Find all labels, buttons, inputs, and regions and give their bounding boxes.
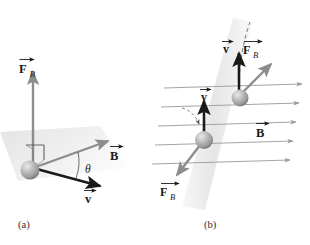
- field-line: [155, 141, 293, 145]
- field-label-b-symbol: B: [256, 126, 264, 140]
- physics-figure: F B B v θ (a): [0, 0, 310, 245]
- velocity-label-b-lower-symbol: v: [201, 90, 207, 104]
- velocity-label-b-lower: v: [200, 90, 211, 105]
- field-label-a-symbol: B: [110, 149, 118, 163]
- panel-tag-b: (b): [204, 219, 217, 231]
- field-line: [158, 122, 296, 126]
- particle-sphere-b-upper: [232, 90, 249, 107]
- force-label-b-lower-subscript: B: [170, 192, 175, 202]
- force-label-b-upper-symbol: F: [243, 43, 250, 57]
- force-label-b-upper-subscript: B: [253, 50, 258, 60]
- force-label-b-lower: F B: [160, 184, 179, 202]
- particle-sphere-a: [21, 161, 40, 180]
- particle-sphere-b-lower: [195, 131, 213, 149]
- panel-a: F B B v θ (a): [0, 60, 128, 232]
- figure-canvas: F B B v θ (a): [0, 0, 310, 245]
- velocity-label-a: v: [84, 191, 96, 207]
- field-label-b: B: [256, 124, 269, 141]
- velocity-label-b-upper-symbol: v: [223, 42, 229, 56]
- panel-b: B v F: [152, 18, 302, 231]
- angle-label-a: θ: [85, 163, 91, 175]
- trajectory-dashed-lower: [182, 108, 199, 124]
- force-label-a-subscript: B: [30, 69, 36, 79]
- plane-vb-a: [0, 126, 128, 181]
- field-line: [152, 160, 290, 164]
- force-label-b-upper: F B: [243, 42, 262, 60]
- panel-tag-a: (a): [18, 219, 30, 231]
- force-label-a-symbol: F: [19, 62, 27, 76]
- force-label-b-lower-symbol: F: [160, 185, 167, 199]
- velocity-label-a-symbol: v: [85, 192, 92, 206]
- force-label-a: F B: [19, 60, 36, 79]
